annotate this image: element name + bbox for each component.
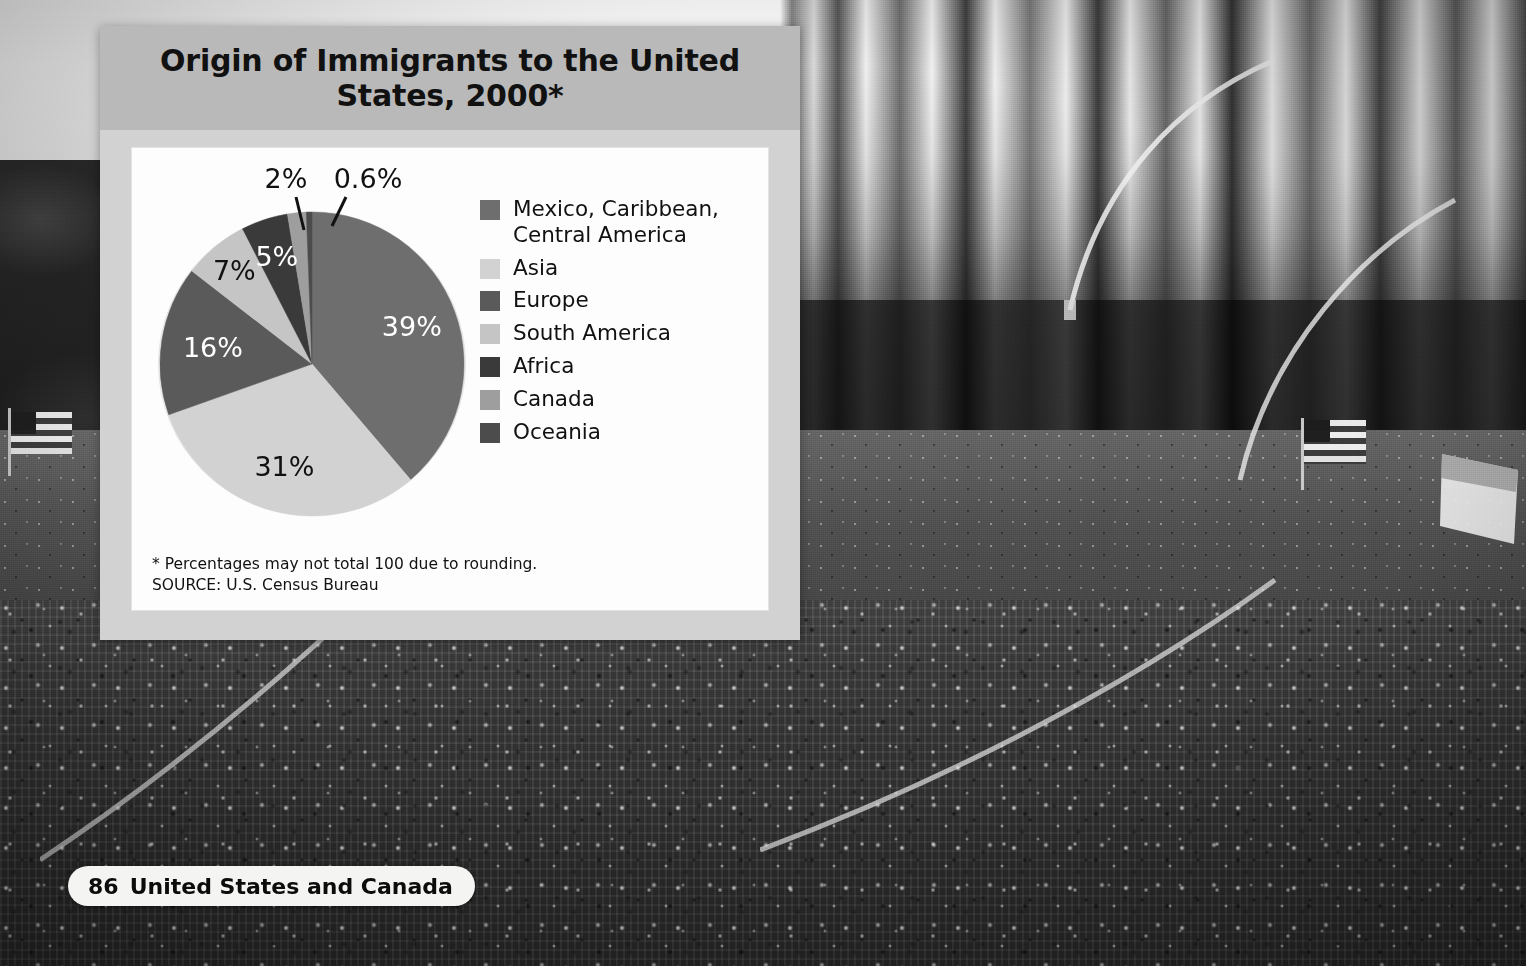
streetlamp-icon [1130, 190, 1460, 490]
page-title: Origin of Immigrants to the United State… [100, 43, 800, 114]
legend-swatch-africa [480, 357, 500, 377]
pie-chart-svg: 39%31%16%7%5%2%0.6% [136, 152, 484, 552]
pie-slice-label: 0.6% [334, 163, 403, 194]
infographic-panel: Origin of Immigrants to the United State… [100, 26, 800, 640]
pie-slice-label: 2% [265, 163, 308, 194]
legend-swatch-canada [480, 390, 500, 410]
legend-label-canada: Canada [513, 386, 595, 412]
legend-label-europe: Europe [513, 287, 589, 313]
legend-item[interactable]: Canada [480, 386, 758, 412]
legend-item[interactable]: Asia [480, 255, 758, 281]
american-flag-icon [1300, 418, 1374, 496]
footnote-source: SOURCE: U.S. Census Bureau [152, 575, 752, 596]
legend-swatch-mexico-caribbean-central-america [480, 200, 500, 220]
chart-container: 39%31%16%7%5%2%0.6% Mexico, Caribbean,Ce… [132, 148, 768, 610]
legend-swatch-oceania [480, 423, 500, 443]
page-footer-label: 86 United States and Canada [68, 866, 475, 906]
legend-item[interactable]: Europe [480, 287, 758, 313]
panel-header: Origin of Immigrants to the United State… [100, 26, 800, 130]
pie-slice-label: 39% [382, 311, 442, 342]
legend-item[interactable]: Mexico, Caribbean,Central America [480, 196, 758, 248]
page-section-title: United States and Canada [130, 874, 453, 899]
pie-slice-label: 31% [254, 451, 314, 482]
american-flag-icon [8, 408, 80, 482]
page-number: 86 [88, 874, 119, 899]
legend-label-south-america: South America [513, 320, 671, 346]
streetlamp-icon [760, 560, 1280, 860]
chart-footnote: * Percentages may not total 100 due to r… [152, 554, 752, 596]
legend-item[interactable]: Africa [480, 353, 758, 379]
legend-swatch-asia [480, 259, 500, 279]
legend-item[interactable]: South America [480, 320, 758, 346]
legend-swatch-south-america [480, 324, 500, 344]
pie-slice-label: 16% [183, 332, 243, 363]
pie-slice-label: 5% [255, 241, 298, 272]
footnote-rounding: * Percentages may not total 100 due to r… [152, 554, 752, 575]
page-screenshot: Origin of Immigrants to the United State… [0, 0, 1526, 966]
legend-label-africa: Africa [513, 353, 574, 379]
legend-swatch-europe [480, 291, 500, 311]
legend-label-mexico-caribbean-central-america: Mexico, Caribbean,Central America [513, 196, 719, 248]
chart-legend: Mexico, Caribbean,Central America Asia E… [480, 196, 758, 451]
legend-item[interactable]: Oceania [480, 419, 758, 445]
flag-icon [1436, 452, 1522, 566]
pie-chart: 39%31%16%7%5%2%0.6% [136, 152, 484, 552]
pie-slice-label: 7% [213, 255, 256, 286]
legend-label-oceania: Oceania [513, 419, 601, 445]
legend-label-asia: Asia [513, 255, 558, 281]
